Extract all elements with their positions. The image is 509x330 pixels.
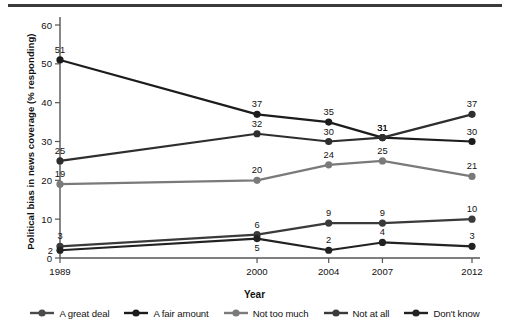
legend-marker-icon	[29, 307, 55, 319]
data-point-label: 2	[326, 235, 331, 245]
legend-marker-icon	[223, 307, 249, 319]
data-point-label: 51	[55, 45, 65, 55]
top-divider-rule	[8, 4, 502, 7]
data-point-marker	[468, 173, 475, 180]
data-point-marker	[379, 239, 386, 246]
data-point-marker	[379, 219, 386, 226]
series-line-3	[60, 219, 472, 246]
data-point-marker	[468, 216, 475, 223]
data-point-label: 5	[254, 243, 259, 253]
data-point-marker	[468, 138, 475, 145]
data-point-label: 3	[57, 231, 62, 241]
data-point-marker	[56, 56, 63, 63]
data-point-label: 10	[467, 204, 477, 214]
data-point-label: 9	[380, 208, 385, 218]
legend-label: Don't know	[433, 308, 479, 319]
series-line-4	[60, 239, 472, 251]
data-point-label: 19	[55, 169, 65, 179]
data-point-label: 25	[377, 146, 387, 156]
y-axis-tick-label: 30	[41, 136, 52, 147]
line-chart-svg: 010203040506019892000200420072012 513735…	[0, 8, 509, 293]
chart-legend: A great dealA fair amountNot too muchNot…	[0, 302, 509, 324]
data-point-label: 9	[326, 208, 331, 218]
y-axis-tick-label: 40	[41, 97, 52, 108]
data-point-label: 4	[380, 227, 385, 237]
data-labels-group: 5137353130253230313719202425213699102524…	[48, 45, 477, 256]
x-axis-tick-label: 2004	[318, 266, 340, 277]
legend-item-3[interactable]: Not at all	[323, 307, 390, 319]
data-point-marker	[253, 177, 260, 184]
chart-plot-area: Political bias in news coverage (% respo…	[0, 8, 509, 293]
legend-item-4[interactable]: Don't know	[403, 307, 479, 319]
data-point-label: 21	[467, 161, 477, 171]
y-axis-tick-label: 50	[41, 58, 52, 69]
data-point-marker	[325, 118, 332, 125]
x-axis-tick-label: 2000	[246, 266, 267, 277]
legend-marker-icon	[403, 307, 429, 319]
chart-figure: Political bias in news coverage (% respo…	[0, 0, 509, 330]
data-point-label: 6	[254, 220, 259, 230]
data-point-label: 37	[467, 99, 477, 109]
data-point-label: 24	[324, 150, 334, 160]
x-axis-title: Year	[0, 289, 509, 300]
legend-label: Not at all	[353, 308, 390, 319]
data-point-marker	[253, 235, 260, 242]
data-point-marker	[325, 161, 332, 168]
series-line-1	[60, 114, 472, 161]
data-point-marker	[325, 219, 332, 226]
data-point-label: 3	[469, 231, 474, 241]
y-axis-tick-label: 10	[41, 214, 52, 225]
legend-label: A fair amount	[153, 308, 208, 319]
data-point-label: 30	[467, 127, 477, 137]
data-point-label: 30	[324, 127, 334, 137]
legend-item-2[interactable]: Not too much	[223, 307, 309, 319]
legend-item-1[interactable]: A fair amount	[123, 307, 208, 319]
axes-group: 010203040506019892000200420072012	[41, 17, 482, 277]
data-point-marker	[56, 181, 63, 188]
legend-marker-icon	[323, 307, 349, 319]
data-point-marker	[468, 111, 475, 118]
series-line-2	[60, 161, 472, 184]
x-axis-tick-label: 1989	[49, 266, 70, 277]
data-point-marker	[379, 134, 386, 141]
data-point-label: 20	[252, 165, 262, 175]
data-point-label: 31	[377, 123, 387, 133]
data-point-marker	[379, 157, 386, 164]
data-point-marker	[56, 157, 63, 164]
x-axis-tick-label: 2007	[372, 266, 393, 277]
series-group	[56, 56, 475, 253]
legend-item-0[interactable]: A great deal	[29, 307, 109, 319]
legend-label: Not too much	[253, 308, 309, 319]
data-point-marker	[56, 247, 63, 254]
data-point-label: 32	[252, 119, 262, 129]
x-axis-tick-label: 2012	[461, 266, 482, 277]
data-point-marker	[325, 138, 332, 145]
legend-marker-icon	[123, 307, 149, 319]
data-point-label: 2	[48, 246, 53, 256]
y-axis-tick-label: 20	[41, 175, 52, 186]
data-point-marker	[325, 247, 332, 254]
data-point-marker	[253, 111, 260, 118]
data-point-label: 37	[252, 99, 262, 109]
legend-label: A great deal	[59, 308, 109, 319]
y-axis-tick-label: 60	[41, 20, 52, 31]
data-point-label: 25	[55, 146, 65, 156]
data-point-marker	[253, 130, 260, 137]
data-point-marker	[468, 243, 475, 250]
data-point-label: 35	[324, 107, 334, 117]
